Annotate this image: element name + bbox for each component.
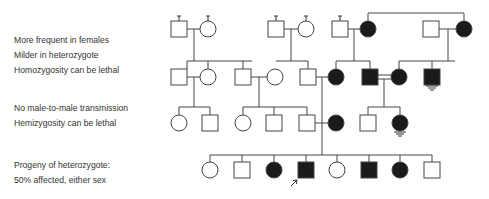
- individual-gen4-6-male-affected: [361, 162, 377, 178]
- individual-gen1-8-female-affected: [456, 21, 472, 37]
- individual-gen1-7-male: [423, 21, 439, 37]
- individual-gen2-9-male-affected: [424, 69, 440, 85]
- individual-gen3-8-female-affected: [392, 115, 408, 131]
- individual-gen1-3-male: [268, 21, 284, 37]
- individual-gen2-3-male: [235, 69, 251, 85]
- individual-gen1-1-male: [171, 21, 187, 37]
- individual-gen4-4-male-affected: [298, 162, 314, 178]
- individual-gen4-1-female: [202, 162, 218, 178]
- individual-gen3-5-male: [299, 115, 315, 131]
- pedigree-chart: [0, 0, 489, 199]
- individual-gen2-6-female-affected: [328, 69, 344, 85]
- individual-gen4-3-female-affected: [266, 162, 282, 178]
- individual-gen4-5-female: [329, 162, 345, 178]
- individual-gen2-4-female: [267, 69, 283, 85]
- proband-arrow-icon: [291, 180, 297, 186]
- individual-gen3-4-male: [266, 115, 282, 131]
- individual-gen4-7-female-affected: [392, 162, 408, 178]
- individual-gen4-8-male: [424, 162, 440, 178]
- individual-gen2-7-male-affected: [362, 69, 378, 85]
- individual-gen1-6-female-affected: [360, 21, 376, 37]
- individual-gen2-2-female: [200, 69, 216, 85]
- individual-gen3-1-female: [171, 115, 187, 131]
- individual-gen2-1-male: [171, 69, 187, 85]
- individual-gen3-3-female: [235, 115, 251, 131]
- individual-gen2-8-female-affected: [391, 69, 407, 85]
- individual-gen2-5-male: [300, 69, 316, 85]
- individual-gen1-4-female: [298, 21, 314, 37]
- individual-gen3-7-male: [360, 115, 376, 131]
- individual-gen3-2-male: [202, 115, 218, 131]
- pedigree-markers: [177, 16, 438, 186]
- individual-gen4-2-male: [234, 162, 250, 178]
- individual-gen1-2-female: [200, 21, 216, 37]
- individual-gen3-6-female-affected: [328, 115, 344, 131]
- pedigree-lines: [179, 13, 464, 162]
- individual-gen1-5-male: [332, 21, 348, 37]
